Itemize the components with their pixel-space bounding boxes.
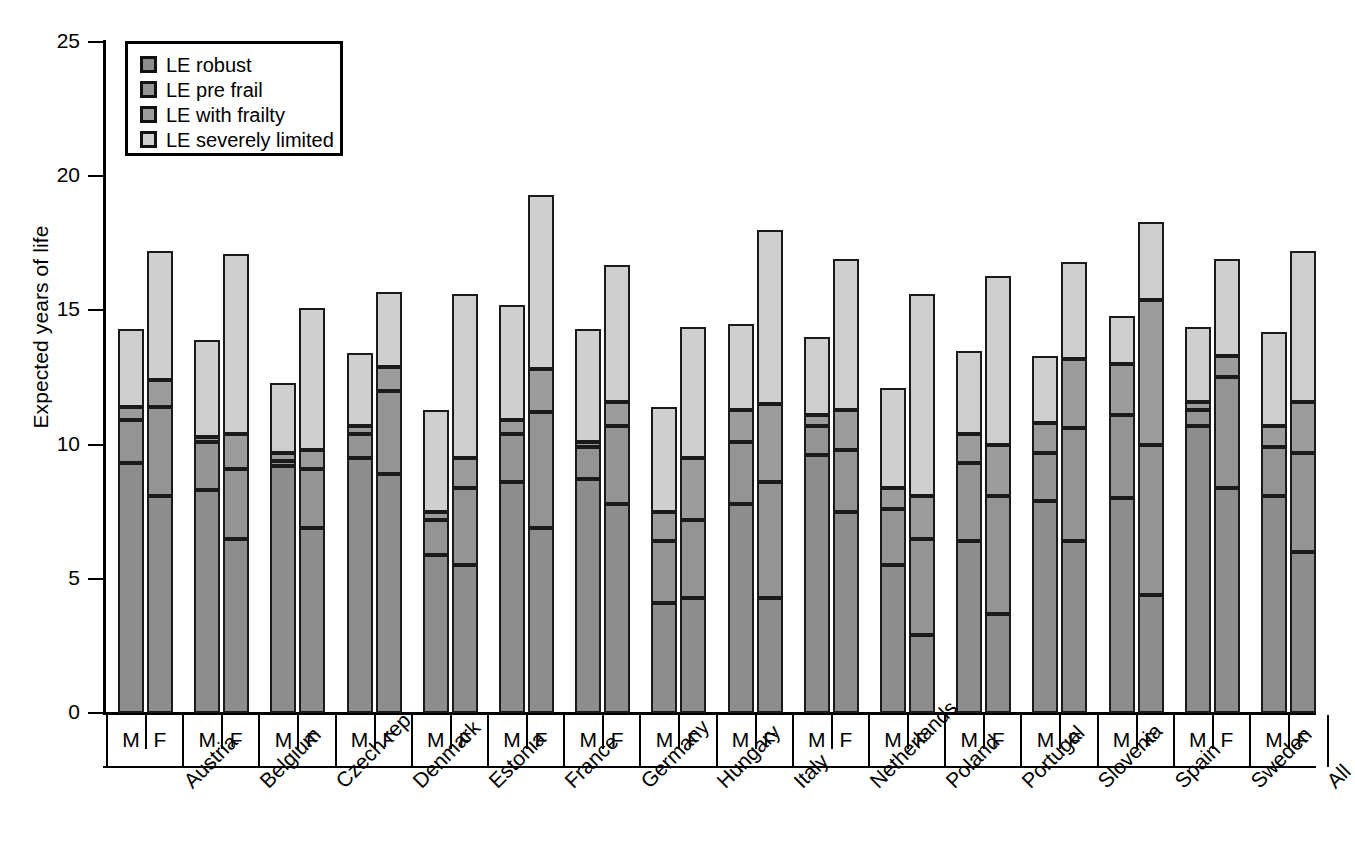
x-axis-sex-label-f: F <box>526 715 556 767</box>
x-axis-separator <box>639 715 641 767</box>
bar-segment <box>118 420 144 463</box>
bar-segment <box>833 410 859 450</box>
y-axis-tick <box>88 444 104 446</box>
bar-segment <box>804 426 830 456</box>
x-axis-sex-label-f: F <box>1212 715 1242 767</box>
bar-segment <box>1061 428 1087 541</box>
bar-segment <box>909 294 935 495</box>
y-axis-tick <box>88 41 104 43</box>
x-axis-sex-label-f: F <box>831 715 861 767</box>
bar-sweden-m <box>1185 327 1211 713</box>
bar-segment <box>347 353 373 425</box>
bar-segment <box>604 426 630 504</box>
x-axis-separator <box>907 715 909 749</box>
x-axis-separator <box>678 715 680 749</box>
bar-segment <box>299 469 325 528</box>
y-axis-tick-label: 5 <box>20 566 80 590</box>
bar-segment <box>452 488 478 566</box>
bar-estonia-f <box>452 294 478 713</box>
bar-belgium-m <box>194 340 220 713</box>
bar-segment <box>1032 453 1058 501</box>
bar-segment <box>147 407 173 496</box>
y-axis-tick <box>88 175 104 177</box>
bar-segment <box>1138 222 1164 300</box>
bar-segment <box>423 512 449 520</box>
x-axis-sex-label-m: M <box>116 715 146 767</box>
x-axis-separator <box>755 715 757 749</box>
bar-segment <box>499 434 525 482</box>
y-axis-tick-label: 15 <box>20 297 80 321</box>
x-axis-sex-label-m: M <box>1259 715 1289 767</box>
bar-segment <box>956 351 982 434</box>
bar-segment <box>1261 447 1287 495</box>
x-axis-sex-label-f: F <box>374 715 404 767</box>
x-axis-separator <box>944 715 946 767</box>
bar-segment <box>270 453 296 461</box>
bar-slovenia-m <box>1032 356 1058 713</box>
bar-segment <box>880 565 906 713</box>
bar-segment <box>1032 501 1058 713</box>
bar-segment <box>680 520 706 598</box>
bar-segment <box>985 276 1011 445</box>
bar-segment <box>680 598 706 713</box>
bar-segment <box>452 458 478 488</box>
bar-segment <box>985 496 1011 614</box>
x-axis-separator <box>602 715 604 749</box>
bar-segment <box>804 415 830 426</box>
bar-segment <box>347 458 373 713</box>
bar-segment <box>604 504 630 713</box>
legend-item: LE pre frail <box>140 77 340 102</box>
bar-segment <box>376 474 402 713</box>
bar-segment <box>499 482 525 713</box>
bar-segment <box>1185 402 1211 410</box>
bar-segment <box>880 509 906 565</box>
x-axis-sex-label-m: M <box>192 715 222 767</box>
bar-sweden-f <box>1214 259 1240 713</box>
bar-segment <box>299 308 325 450</box>
bar-segment <box>376 367 402 391</box>
bar-portugal-f <box>985 276 1011 713</box>
bar-segment <box>147 496 173 713</box>
bar-segment <box>376 292 402 367</box>
x-axis-separator <box>182 715 184 767</box>
bar-segment <box>804 455 830 713</box>
x-axis-sex-label-f: F <box>602 715 632 767</box>
bar-segment <box>528 528 554 713</box>
bar-segment <box>728 442 754 504</box>
bar-segment <box>757 404 783 482</box>
legend-item: LE robust <box>140 52 340 77</box>
bar-hungary-m <box>651 407 677 713</box>
x-axis-sex-label-f: F <box>907 715 937 767</box>
x-axis-sex-label-f: F <box>450 715 480 767</box>
bar-czech-rep-m <box>270 383 296 713</box>
legend-label: LE with frailty <box>166 105 285 125</box>
bar-segment <box>575 442 601 447</box>
bar-denmark-m <box>347 353 373 713</box>
bar-segment <box>1061 359 1087 429</box>
bar-segment <box>347 434 373 458</box>
x-axis-sex-label-f: F <box>755 715 785 767</box>
x-axis-separator <box>1288 715 1290 749</box>
x-axis-separator <box>831 715 833 749</box>
bar-segment <box>985 445 1011 496</box>
bar-segment <box>223 469 249 539</box>
x-axis-separator <box>1173 715 1175 767</box>
x-axis-separator <box>335 715 337 767</box>
bar-belgium-f <box>223 254 249 713</box>
bar-france-m <box>499 305 525 713</box>
x-axis-separator <box>1212 715 1214 749</box>
bar-segment <box>985 614 1011 713</box>
bar-segment <box>1290 402 1316 453</box>
x-axis-sex-label-f: F <box>221 715 251 767</box>
y-axis-tick-label: 0 <box>20 700 80 724</box>
bar-germany-m <box>575 329 601 713</box>
bar-slovenia-f <box>1061 262 1087 713</box>
bar-segment <box>347 426 373 434</box>
y-axis-tick-label: 25 <box>20 29 80 53</box>
y-axis-line <box>103 40 106 715</box>
y-axis-tick-label: 10 <box>20 432 80 456</box>
bar-segment <box>1032 356 1058 423</box>
x-axis-sex-label-f: F <box>1136 715 1166 767</box>
bar-segment <box>1138 300 1164 445</box>
